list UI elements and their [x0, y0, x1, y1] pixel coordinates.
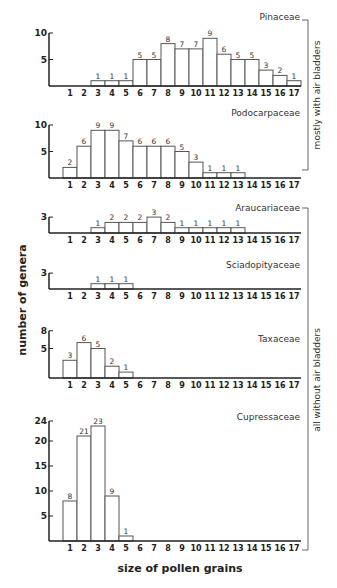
x-tick-label: 4 [109, 236, 115, 245]
x-tick-label: 10 [190, 89, 202, 98]
x-tick-label: 2 [81, 544, 87, 553]
bar [203, 228, 217, 233]
x-tick-label: 17 [288, 181, 299, 190]
x-tick-label: 11 [204, 236, 216, 245]
x-tick-label: 13 [232, 89, 243, 98]
bar-value-label: 1 [110, 275, 115, 284]
x-tick-label: 9 [179, 236, 185, 245]
bar-value-label: 2 [68, 158, 73, 167]
x-tick-label: 2 [81, 292, 87, 301]
x-tick-label: 9 [179, 292, 185, 301]
x-tick-label: 16 [274, 544, 286, 553]
bar [203, 38, 217, 86]
bar [175, 228, 189, 233]
x-tick-label: 12 [218, 544, 229, 553]
family-label: Taxaceae [257, 334, 300, 344]
x-tick-label: 5 [123, 544, 129, 553]
bar-value-label: 1 [96, 219, 101, 228]
x-tick-label: 3 [95, 544, 101, 553]
x-tick-label: 8 [165, 89, 171, 98]
bar-value-label: 23 [93, 417, 103, 426]
x-tick-label: 9 [179, 181, 185, 190]
x-tick-label: 16 [274, 292, 286, 301]
bar-value-label: 1 [222, 164, 227, 173]
x-tick-label: 16 [274, 89, 286, 98]
bar [217, 173, 231, 178]
bar [245, 60, 259, 87]
y-tick-label: 10 [34, 486, 47, 496]
x-tick-label: 11 [204, 544, 216, 553]
x-tick-label: 12 [218, 89, 229, 98]
family-label: Pinaceae [260, 12, 301, 22]
bar-value-label: 6 [152, 137, 157, 146]
x-tick-label: 11 [204, 89, 216, 98]
x-tick-label: 14 [246, 544, 258, 553]
x-tick-label: 4 [109, 381, 115, 390]
x-tick-label: 1 [67, 381, 73, 390]
x-tick-label: 1 [67, 544, 73, 553]
bar-value-label: 1 [222, 219, 227, 228]
bar-value-label: 1 [236, 219, 241, 228]
bar-value-label: 6 [222, 45, 227, 54]
bar-value-label: 2 [110, 357, 115, 366]
y-tick-label: 20 [34, 436, 47, 446]
bar [119, 81, 133, 86]
x-tick-label: 10 [190, 381, 202, 390]
y-tick-label: 3 [41, 268, 47, 278]
bar-value-label: 5 [180, 143, 185, 152]
x-tick-label: 14 [246, 292, 258, 301]
x-tick-label: 11 [204, 381, 216, 390]
x-tick-label: 8 [165, 292, 171, 301]
bar-value-label: 7 [180, 40, 185, 49]
bar-value-label: 2 [110, 213, 115, 222]
x-tick-label: 9 [179, 381, 185, 390]
bar [63, 360, 77, 378]
x-tick-label: 15 [260, 236, 272, 245]
x-tick-label: 4 [109, 89, 115, 98]
bar-value-label: 9 [208, 29, 213, 38]
x-tick-label: 6 [137, 181, 143, 190]
bar-value-label: 8 [68, 492, 73, 501]
x-tick-label: 11 [204, 181, 216, 190]
x-tick-label: 12 [218, 381, 229, 390]
x-tick-label: 3 [95, 89, 101, 98]
bar [77, 343, 91, 378]
x-tick-label: 9 [179, 89, 185, 98]
x-tick-label: 5 [123, 181, 129, 190]
bar [203, 173, 217, 178]
bar [175, 49, 189, 86]
bar-value-label: 5 [236, 51, 241, 60]
bar [217, 54, 231, 86]
bar [273, 75, 287, 86]
bar [91, 426, 105, 541]
group-label-top: mostly with air bladders [312, 40, 322, 149]
bar [105, 284, 119, 289]
x-tick-label: 13 [232, 236, 243, 245]
bar [147, 60, 161, 87]
bar [91, 81, 105, 86]
x-tick-label: 8 [165, 181, 171, 190]
y-tick-label: 10 [34, 120, 47, 130]
y-tick-label: 24 [34, 416, 47, 426]
x-tick-label: 13 [232, 381, 243, 390]
x-tick-label: 4 [109, 544, 115, 553]
y-axis-title: number of genera [16, 244, 29, 355]
bar [147, 217, 161, 233]
bar-value-label: 1 [208, 164, 213, 173]
bar-value-label: 1 [96, 72, 101, 81]
x-tick-label: 1 [67, 236, 73, 245]
x-tick-label: 3 [95, 381, 101, 390]
bar [133, 60, 147, 87]
y-tick-label: 5 [41, 55, 47, 65]
bar [91, 349, 105, 379]
bar [105, 130, 119, 178]
x-tick-label: 7 [151, 292, 157, 301]
bar-value-label: 1 [124, 527, 129, 536]
x-tick-label: 13 [232, 181, 243, 190]
x-tick-label: 1 [67, 89, 73, 98]
bar [217, 228, 231, 233]
bar-value-label: 6 [82, 334, 87, 343]
pollen-size-chart: 1115587796553215101234567891011121314151… [0, 0, 337, 588]
bar [119, 222, 133, 233]
x-tick-label: 7 [151, 236, 157, 245]
